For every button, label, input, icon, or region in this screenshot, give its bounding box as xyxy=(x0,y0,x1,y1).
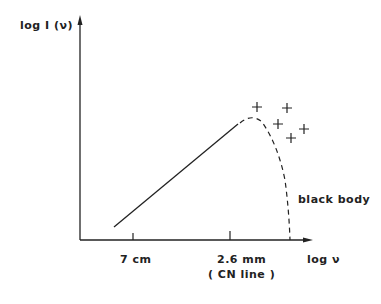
tick-sublabel-cn-line: ( CN line ) xyxy=(208,268,275,281)
x-axis-arrow-icon xyxy=(303,238,313,243)
y-axis-label: log I (ν) xyxy=(20,19,73,32)
plus-markers xyxy=(252,102,309,143)
tick-label-7cm: 7 cm xyxy=(120,253,151,266)
black-body-dashed-curve xyxy=(240,118,290,240)
black-body-label: black body xyxy=(298,193,370,206)
solid-spectrum-line xyxy=(114,124,238,227)
tick-label-2-6mm: 2.6 mm xyxy=(217,253,266,266)
y-axis-arrow-icon xyxy=(78,15,83,25)
x-axis-label: log ν xyxy=(307,253,340,266)
